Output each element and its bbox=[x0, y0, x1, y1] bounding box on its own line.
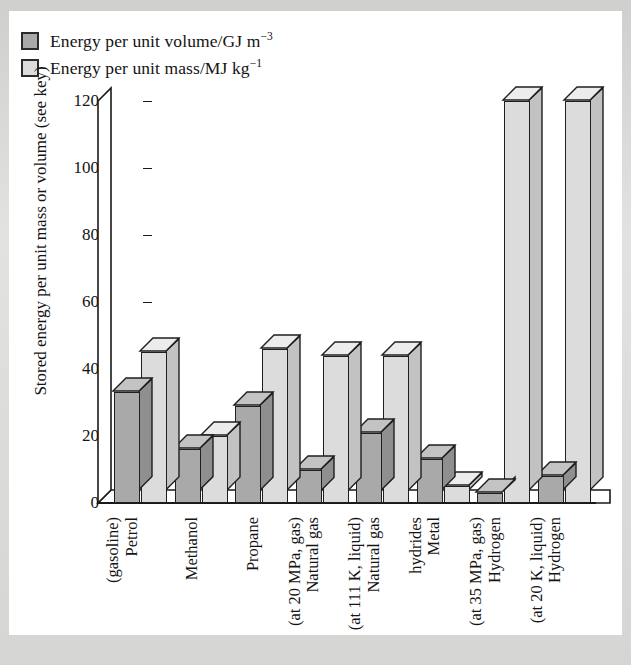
x-category-4-line-0: Natural gas bbox=[366, 517, 383, 593]
x-category-0-line-0: Petrol bbox=[124, 517, 141, 556]
x-category-0-line-1: (gasoline) bbox=[105, 517, 122, 583]
y-axis-title: Stored energy per unit mass or volume (s… bbox=[31, 31, 51, 431]
x-category-4-line-1: (at 111 K, liquid) bbox=[347, 517, 364, 630]
y-tick-label-60: 60 bbox=[82, 292, 99, 312]
y-axis-ticks: 020406080100120 bbox=[53, 95, 99, 515]
bar-volume-0[interactable] bbox=[114, 392, 140, 503]
y-tick-label-40: 40 bbox=[82, 359, 99, 379]
x-category-6-line-1: (at 35 MPa, gas) bbox=[468, 517, 485, 626]
scanned-page: Energy per unit volume/GJ m−3 Energy per… bbox=[0, 0, 631, 665]
y-tick-label-120: 120 bbox=[74, 91, 100, 111]
x-category-1-line-0: Methanol bbox=[184, 517, 201, 580]
bar-mass-6[interactable] bbox=[504, 101, 530, 503]
x-category-5-line-1: hydrides bbox=[408, 517, 425, 574]
bar-front-face bbox=[504, 101, 530, 503]
bar-front-face bbox=[565, 101, 591, 503]
x-category-7-line-0: Hydrogen bbox=[547, 517, 564, 583]
bar-front-face bbox=[114, 392, 140, 503]
x-category-3-line-0: Natural gas bbox=[305, 517, 322, 593]
x-category-6-line-0: Hydrogen bbox=[487, 517, 504, 583]
x-category-7-line-1: (at 20 K, liquid) bbox=[529, 517, 546, 623]
bar-chart: Stored energy per unit mass or volume (s… bbox=[9, 11, 622, 635]
figure-sheet: Energy per unit volume/GJ m−3 Energy per… bbox=[9, 11, 622, 635]
y-tick-label-100: 100 bbox=[74, 158, 100, 178]
bar-mass-7[interactable] bbox=[565, 101, 591, 503]
x-category-5-line-0: Metal bbox=[426, 517, 443, 556]
x-category-3-line-1: (at 20 MPa, gas) bbox=[287, 517, 304, 626]
x-category-2-line-0: Propane bbox=[245, 517, 262, 571]
y-tick-label-80: 80 bbox=[82, 225, 99, 245]
x-axis-category-labels: Petrol(gasoline)MethanolPropaneNatural g… bbox=[98, 517, 610, 665]
plot-area bbox=[98, 101, 610, 516]
y-tick-label-20: 20 bbox=[82, 426, 99, 446]
